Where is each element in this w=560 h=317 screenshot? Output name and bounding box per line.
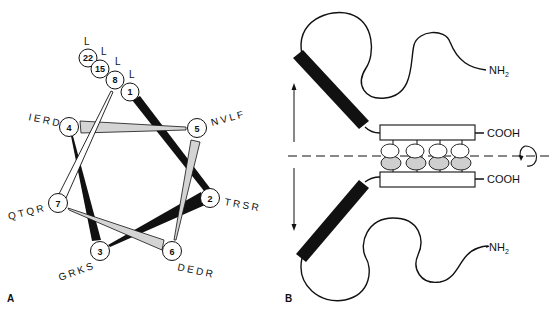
svg-text:2: 2 <box>207 194 212 204</box>
svg-text:7: 7 <box>55 199 60 209</box>
label-position-6: DEDR <box>177 261 217 280</box>
label-position-4: IERD <box>28 111 63 129</box>
label-position-5: NVLF <box>210 108 247 128</box>
interface-pair-4 <box>451 140 471 176</box>
panel-a-helical-wheel: 22 15 8 1 L L L L 4 5 2 <box>7 36 262 304</box>
svg-text:22: 22 <box>83 53 93 63</box>
panel-label-a: A <box>7 293 14 304</box>
figure-canvas: 22 15 8 1 L L L L 4 5 2 <box>0 0 560 317</box>
residue-8: 8 <box>106 71 124 89</box>
residue-15: 15 <box>91 60 109 78</box>
svg-text:3: 3 <box>97 247 102 257</box>
top-coil-segment <box>380 125 475 140</box>
interface-pair-2 <box>406 140 426 176</box>
bottom-helix-link <box>365 177 380 182</box>
interface-pairs <box>381 140 471 176</box>
residue-7: 7 <box>49 194 68 213</box>
residue-6: 6 <box>163 242 182 261</box>
arrow-up-icon <box>292 83 297 142</box>
label-L-22: L <box>84 36 90 47</box>
svg-text:5: 5 <box>194 124 199 134</box>
label-L-15: L <box>101 46 107 57</box>
label-position-2: TRSR <box>224 196 263 213</box>
interface-pair-1 <box>381 140 401 176</box>
bottom-helix-bar <box>296 180 369 262</box>
ribbon-7-8 <box>59 91 113 198</box>
arrow-down-icon <box>292 168 297 231</box>
top-c-terminus-label: COOH <box>487 127 520 139</box>
panel-label-b: B <box>285 293 292 304</box>
svg-text:4: 4 <box>66 123 71 133</box>
label-L-1: L <box>129 69 135 80</box>
bottom-n-terminus-label: NH2 <box>489 241 509 255</box>
residue-2: 2 <box>201 189 220 208</box>
label-L-8: L <box>115 56 121 67</box>
residue-5: 5 <box>188 119 207 138</box>
svg-text:8: 8 <box>112 75 117 85</box>
label-position-7: QTQR <box>7 202 47 222</box>
svg-text:1: 1 <box>127 87 132 97</box>
interface-pair-3 <box>429 140 449 176</box>
panel-b-coiled-coil: NH2 COOH <box>285 13 550 304</box>
top-helix-link <box>365 127 380 133</box>
label-position-3: GRKS <box>57 259 97 282</box>
svg-text:6: 6 <box>169 247 174 257</box>
bottom-coil-segment <box>380 172 475 187</box>
top-n-terminus-label: NH2 <box>489 64 509 78</box>
bottom-c-terminus-label: COOH <box>487 173 520 185</box>
residue-3: 3 <box>91 242 110 261</box>
svg-text:15: 15 <box>95 64 105 74</box>
residue-1: 1 <box>121 83 139 101</box>
ribbon-1-2 <box>132 96 213 196</box>
top-helix-bar <box>293 50 369 129</box>
